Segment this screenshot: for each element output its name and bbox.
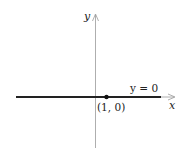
point-1-0	[104, 95, 108, 99]
line-label: y = 0	[129, 82, 158, 94]
line-label-text: y = 0	[129, 82, 158, 94]
x-axis-label: x	[169, 99, 176, 112]
coordinate-diagram: y x y = 0 (1, 0)	[0, 0, 184, 154]
y-axis-label: y	[83, 10, 91, 23]
point-label: (1, 0)	[97, 101, 125, 113]
